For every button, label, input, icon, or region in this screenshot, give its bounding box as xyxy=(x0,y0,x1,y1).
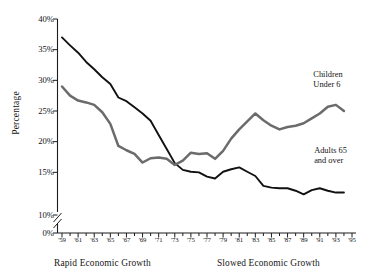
series-line-children-under-6 xyxy=(62,86,344,165)
y-axis-tick-label: 40% xyxy=(38,15,54,24)
rapid-economic-growth: Rapid Economic Growth xyxy=(54,258,151,268)
series-label-adults-65-and-over: Adults 65and over xyxy=(314,146,347,167)
y-axis-title: Percentage xyxy=(11,53,21,173)
y-axis-tick-label: 20% xyxy=(38,137,54,146)
y-axis-tick-label: 10% xyxy=(38,211,54,220)
y-axis-tick-label: 35% xyxy=(38,45,54,54)
series-label-children-under-6: ChildrenUnder 6 xyxy=(313,70,342,91)
series-label-line: and over xyxy=(314,156,347,167)
x-axis-tick-label: '95 xyxy=(342,236,362,243)
y-axis-tick-label: 15% xyxy=(38,168,54,177)
series-label-line: Adults 65 xyxy=(314,146,347,157)
slowed-economic-growth: Slowed Economic Growth xyxy=(217,258,320,268)
y-axis-tick-label: 25% xyxy=(38,107,54,116)
series-label-line: Children xyxy=(313,70,342,81)
series-label-line: Under 6 xyxy=(313,80,342,91)
chart-container: Percentage 0%10%15%20%25%30%35%40% '59'6… xyxy=(0,0,382,280)
y-axis-tick-label: 30% xyxy=(38,76,54,85)
